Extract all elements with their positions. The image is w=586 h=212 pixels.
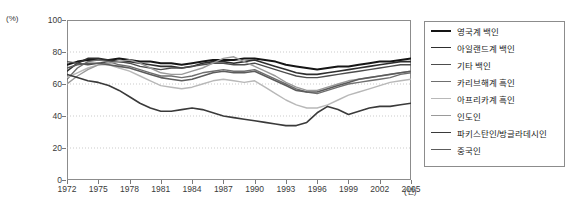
x-axis-tick-mark	[286, 180, 287, 184]
x-axis-tick-mark	[223, 180, 224, 184]
legend-line-swatch-icon	[431, 132, 451, 133]
y-axis-tick-mark	[62, 116, 66, 117]
legend-item-label: 기타 백인	[457, 59, 491, 71]
x-axis-tick-mark	[255, 180, 256, 184]
legend-item-6[interactable]: 파키스탄인/방글라데시인	[425, 124, 564, 141]
x-axis-unit-label: (년)	[404, 185, 416, 196]
legend-item-label: 파키스탄인/방글라데시인	[457, 127, 547, 139]
x-axis-tick-mark	[130, 180, 131, 184]
line-chart-svg	[67, 20, 411, 180]
legend-line-swatch-icon	[431, 64, 451, 65]
x-axis-tick-mark	[411, 180, 412, 184]
legend-item-label: 아프리카계 흑인	[457, 93, 515, 105]
y-axis-tick-mark	[62, 84, 66, 85]
legend-item-0[interactable]: 영국계 백인	[425, 22, 564, 39]
legend-box: 영국계 백인아일랜드계 백인기타 백인카리브해계 흑인아프리카계 흑인인도인파키…	[424, 21, 565, 167]
y-axis-tick-mark	[62, 148, 66, 149]
legend-item-5[interactable]: 인도인	[425, 107, 564, 124]
x-axis-tick-mark	[67, 180, 68, 184]
y-axis-tick-mark	[62, 180, 66, 181]
legend-line-swatch-icon	[431, 115, 451, 116]
legend-item-label: 아일랜드계 백인	[457, 42, 515, 54]
legend-line-swatch-icon	[431, 47, 451, 48]
legend-item-7[interactable]: 중국인	[425, 141, 564, 158]
legend-line-swatch-icon	[431, 98, 451, 99]
chart-root: (%) 100806040200 19721975197819811984198…	[0, 0, 586, 212]
x-axis-tick-mark	[380, 180, 381, 184]
x-axis-tick-mark	[161, 180, 162, 184]
legend-item-2[interactable]: 기타 백인	[425, 56, 564, 73]
x-axis-tick-mark	[192, 180, 193, 184]
legend-item-label: 중국인	[457, 144, 481, 156]
y-axis-tick-mark	[62, 52, 66, 53]
legend-item-1[interactable]: 아일랜드계 백인	[425, 39, 564, 56]
legend-line-swatch-icon	[431, 149, 451, 150]
x-axis-tick-mark	[317, 180, 318, 184]
y-axis-tick-mark	[62, 20, 66, 21]
legend-item-label: 인도인	[457, 110, 481, 122]
x-axis-tick-mark	[348, 180, 349, 184]
legend-line-swatch-icon	[431, 30, 451, 32]
legend-item-label: 영국계 백인	[457, 25, 499, 37]
legend-line-swatch-icon	[431, 81, 451, 82]
legend-item-4[interactable]: 아프리카계 흑인	[425, 90, 564, 107]
x-axis-tick-mark	[98, 180, 99, 184]
legend-item-label: 카리브해계 흑인	[457, 76, 515, 88]
legend-item-3[interactable]: 카리브해계 흑인	[425, 73, 564, 90]
